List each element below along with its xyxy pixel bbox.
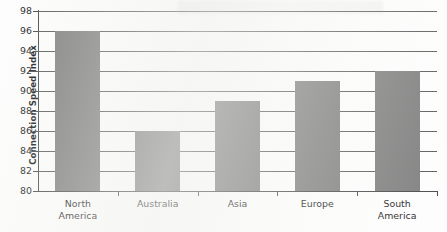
bar <box>375 71 420 191</box>
x-axis-category-label: SouthAmerica <box>357 198 437 221</box>
y-axis-tick-label: 88 <box>10 106 32 115</box>
y-axis-tick-label: 84 <box>10 146 32 155</box>
x-axis-category-label-line: Asia <box>198 198 278 210</box>
x-axis-line <box>38 191 438 192</box>
y-axis-tick-label: 96 <box>10 26 32 35</box>
x-axis-category-label-line: America <box>357 210 437 222</box>
y-axis-tick-label: 86 <box>10 126 32 135</box>
x-axis-category-label-line: South <box>357 198 437 210</box>
y-axis-tick-label: 98 <box>10 6 32 15</box>
gridline <box>38 11 437 12</box>
x-axis-tick-mark <box>357 191 358 196</box>
x-axis-category-label-line: America <box>38 210 118 222</box>
x-axis-category-label-line: Australia <box>118 198 198 210</box>
bar <box>215 101 260 191</box>
x-axis-tick-mark <box>118 191 119 196</box>
x-axis-category-label-line: North <box>38 198 118 210</box>
bar <box>135 131 180 191</box>
bar <box>295 81 340 191</box>
y-axis-tick-label: 90 <box>10 86 32 95</box>
x-axis-category-label: Australia <box>118 198 198 210</box>
x-axis-category-label: Asia <box>198 198 278 210</box>
y-axis-tick-label: 92 <box>10 66 32 75</box>
x-axis-category-label: Europe <box>277 198 357 210</box>
plot-area <box>38 11 437 191</box>
x-axis-tick-mark <box>198 191 199 196</box>
y-axis-tick-label: 94 <box>10 46 32 55</box>
x-axis-category-label: NorthAmerica <box>38 198 118 221</box>
bar-chart: Connection Speed Index 98969492908886848… <box>0 0 447 232</box>
bar <box>55 31 100 191</box>
x-axis-category-label-line: Europe <box>277 198 357 210</box>
x-axis-tick-mark <box>277 191 278 196</box>
y-axis-tick-label: 80 <box>10 186 32 195</box>
y-axis-tick-label: 82 <box>10 166 32 175</box>
x-axis-tick-mark <box>437 191 438 196</box>
